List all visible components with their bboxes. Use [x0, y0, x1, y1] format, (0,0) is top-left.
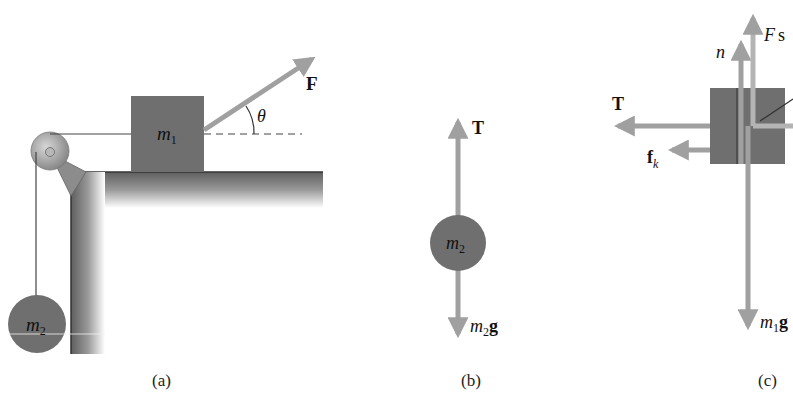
panel-a: m1 m2 θ F (a)	[8, 59, 323, 390]
weight-m1g-label: m1g	[760, 312, 788, 335]
angle-theta-label: θ	[257, 106, 266, 126]
weight-m2g-label: m2g	[470, 316, 498, 339]
caption-b: (b)	[461, 371, 481, 390]
normal-n-label: n	[716, 42, 725, 62]
panel-c: n Fs T fk m1g (c)	[612, 18, 793, 390]
tension-T-label: T	[472, 118, 484, 138]
force-F-label: F	[306, 73, 318, 94]
panel-b: m2 T m2g (b)	[430, 118, 498, 390]
physics-diagram: m1 m2 θ F (a) m2 T m2g (b)	[0, 0, 793, 395]
angle-arc	[246, 106, 254, 134]
table-leg	[71, 172, 105, 354]
table-top	[71, 172, 323, 208]
caption-c: (c)	[758, 371, 777, 390]
tension-T-fbd-label: T	[612, 94, 624, 114]
force-Fs-label: Fs	[763, 25, 785, 45]
caption-a: (a)	[152, 371, 171, 390]
friction-fk-label: fk	[647, 147, 659, 171]
